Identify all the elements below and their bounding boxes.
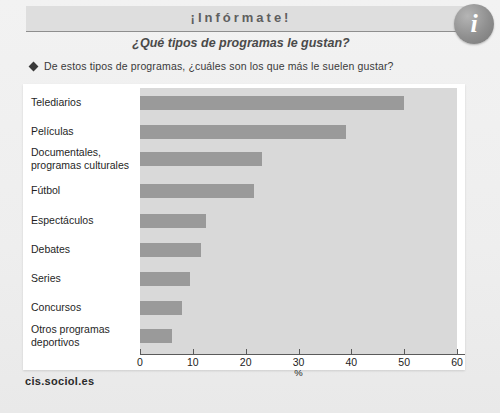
info-icon-letter: i [454, 4, 494, 44]
bar-chart: TelediariosPelículasDocumentales,program… [23, 84, 465, 370]
diamond-bullet-icon [29, 61, 39, 71]
bar [140, 214, 206, 228]
category-label: Concursos [31, 301, 143, 314]
info-icon: i [454, 4, 494, 44]
bar [140, 243, 201, 257]
x-axis-tick [351, 349, 352, 355]
bar [140, 96, 404, 110]
x-axis-tick-label: 20 [240, 356, 252, 368]
category-label: Documentales,programas culturales [31, 146, 143, 171]
bar [140, 125, 346, 139]
category-label: Telediarios [31, 96, 143, 109]
category-label: Otros programasdeportivos [31, 323, 143, 348]
category-label: Espectáculos [31, 214, 143, 227]
chart-subtitle: ¿Qué tipos de programas le gustan? [26, 36, 456, 50]
source-label: cis.sociol.es [25, 375, 94, 387]
question-row: De estos tipos de programas, ¿cuáles son… [30, 60, 470, 72]
x-axis-tick [404, 349, 405, 355]
bar [140, 301, 182, 315]
x-axis-tick-label: 10 [187, 356, 199, 368]
x-axis-tick [246, 349, 247, 355]
header-divider [26, 31, 478, 32]
category-label: Fútbol [31, 184, 143, 197]
x-axis-tick-label: 50 [398, 356, 410, 368]
category-label: Películas [31, 125, 143, 138]
x-axis-tick-label: 0 [137, 356, 143, 368]
page-root: ¡Infórmate! i ¿Qué tipos de programas le… [0, 0, 500, 413]
x-axis-tick [299, 349, 300, 355]
bar [140, 152, 262, 166]
x-axis-tick-label: 60 [451, 356, 463, 368]
category-label: Series [31, 272, 143, 285]
category-axis-labels: TelediariosPelículasDocumentales,program… [31, 88, 141, 354]
x-axis-line [140, 354, 465, 355]
x-axis-tick [193, 349, 194, 355]
bar [140, 184, 254, 198]
plot-area [140, 88, 457, 354]
chart-card: TelediariosPelículasDocumentales,program… [23, 84, 465, 370]
bar [140, 272, 190, 286]
x-axis-tick [140, 349, 141, 355]
x-axis-tick-label: 40 [345, 356, 357, 368]
category-label: Debates [31, 243, 143, 256]
x-axis-unit-label: % [294, 367, 302, 378]
page-title: ¡Infórmate! [26, 9, 456, 27]
bar [140, 329, 172, 343]
question-text: De estos tipos de programas, ¿cuáles son… [44, 60, 394, 72]
x-axis-tick [457, 349, 458, 355]
